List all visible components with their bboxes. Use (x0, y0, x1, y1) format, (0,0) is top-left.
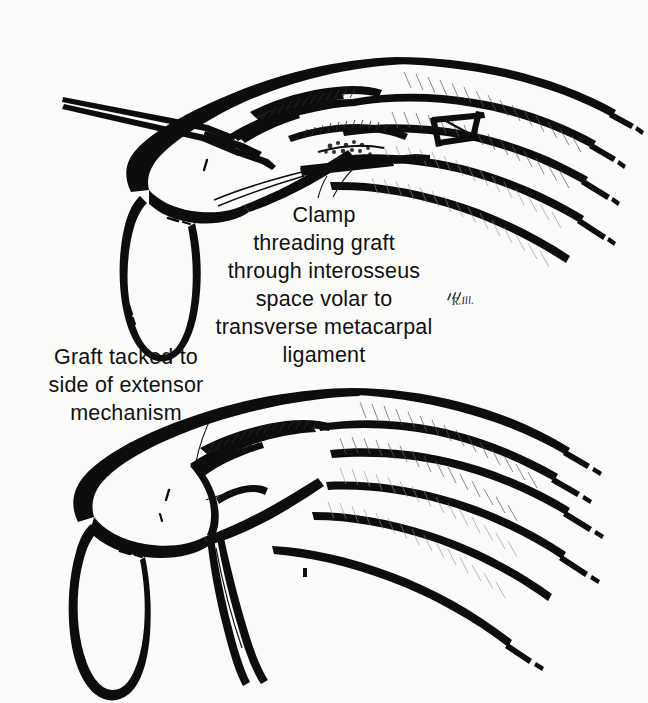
clamp-caption-line-2: through interosseus (228, 259, 421, 283)
graft-caption-line-1: side of extensor (49, 373, 204, 397)
clamp-caption-line-1: threading graft (253, 231, 395, 255)
clamp-caption-line-4: transverse metacarpal (216, 315, 433, 339)
stipple-dot (303, 568, 307, 577)
clamp-caption-line-5: ligament (283, 343, 366, 367)
graft-caption-line-0: Graft tacked to (54, 345, 198, 369)
surgical-illustration-figure: R.Ill. Clamp threading graft through int… (0, 0, 648, 703)
graft-caption-line-2: mechanism (70, 401, 182, 425)
clamp-caption-line-3: space volar to (256, 287, 393, 311)
clamp-caption-line-0: Clamp (292, 203, 355, 227)
graft-caption: Graft tacked to side of extensor mechani… (49, 345, 204, 425)
